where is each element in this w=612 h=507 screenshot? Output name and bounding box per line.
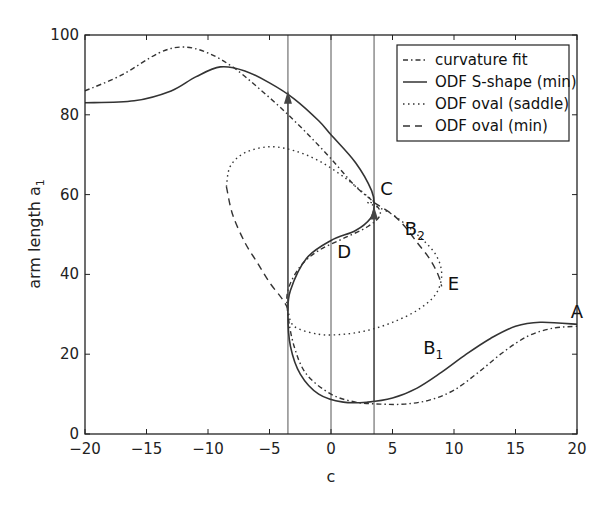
x-tick-label: 0 [326, 440, 336, 458]
y-tick-label: 100 [50, 26, 79, 44]
point-label-b1: B1 [423, 337, 443, 362]
series-odf-oval-min [226, 187, 288, 309]
y-tick-label: 40 [60, 265, 79, 283]
x-tick-label: −15 [131, 440, 163, 458]
y-tick-label: 0 [69, 425, 79, 443]
point-label-d: D [337, 241, 351, 262]
x-tick-label: 10 [444, 440, 463, 458]
series-odf-oval-saddle [226, 147, 441, 335]
x-tick-label: 15 [506, 440, 525, 458]
legend-label: curvature fit [435, 51, 528, 69]
x-tick-label: −5 [258, 440, 280, 458]
legend: curvature fitODF S-shape (min)ODF oval (… [397, 45, 577, 141]
point-label-c: C [380, 178, 393, 199]
point-label-e: E [448, 273, 459, 294]
y-tick-label: 20 [60, 345, 79, 363]
x-tick-label: 20 [567, 440, 586, 458]
arrow-head-icon [370, 207, 378, 220]
legend-label: ODF S-shape (min) [435, 73, 577, 91]
x-axis-label: c [327, 467, 336, 486]
legend-label: ODF oval (saddle) [435, 95, 569, 113]
y-tick-label: 80 [60, 106, 79, 124]
chart-canvas: AB1B2CDE −20−15−10−505101520020406080100… [0, 0, 612, 507]
y-tick-label: 60 [60, 186, 79, 204]
x-tick-label: −10 [192, 440, 224, 458]
x-tick-label: 5 [388, 440, 398, 458]
y-axis-label: arm length a1 [25, 179, 47, 289]
series-odf-oval-min [374, 203, 442, 287]
legend-label: ODF oval (min) [435, 117, 548, 135]
